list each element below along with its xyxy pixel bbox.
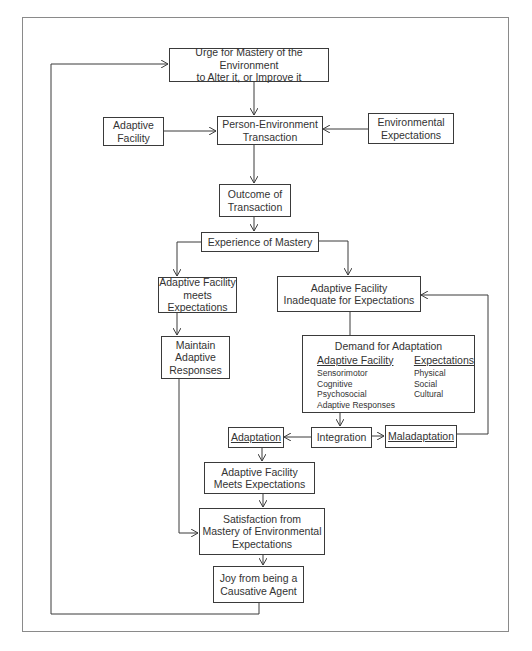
urge-for-mastery-node: Urge for Mastery of the Environment to A…: [169, 48, 329, 82]
column-header: Expectations: [414, 354, 474, 367]
column-item: Cultural: [414, 389, 443, 400]
maintain-adaptive-responses-node: Maintain Adaptive Responses: [161, 336, 230, 379]
demand-title: Demand for Adaptation: [335, 340, 442, 353]
column-item: Social: [414, 379, 437, 390]
joy-node: Joy from being a Causative Agent: [213, 566, 304, 603]
node-label: Transaction: [243, 131, 297, 144]
node-label: Mastery of Environmental: [202, 525, 321, 538]
node-label: Satisfaction from: [223, 513, 301, 526]
maladaptation-node: Maladaptation: [385, 425, 457, 448]
node-label: Adaptation: [231, 431, 281, 444]
node-label: Adaptive Facility: [311, 282, 387, 295]
column-item: Physical: [414, 368, 446, 379]
node-label: Outcome of: [228, 188, 282, 201]
column-header: Adaptive Facility: [317, 354, 393, 367]
node-label: meets Expectations: [159, 289, 236, 314]
node-label: Transaction: [228, 201, 282, 214]
column-item: Sensorimotor: [317, 368, 368, 379]
adaptation-node: Adaptation: [228, 427, 284, 448]
column-item: Adaptive Responses: [317, 400, 395, 411]
person-environment-transaction-node: Person-Environment Transaction: [217, 116, 323, 145]
column-item: Psychosocial: [317, 389, 367, 400]
column-item: Cognitive: [317, 379, 352, 390]
demand-for-adaptation-node: Demand for Adaptation Adaptive Facility …: [302, 335, 475, 413]
node-label: Adaptive: [113, 119, 154, 132]
outcome-of-transaction-node: Outcome of Transaction: [219, 184, 291, 217]
node-label: Expectations: [381, 129, 441, 142]
node-label: Person-Environment: [222, 118, 318, 131]
node-label: to Alter it, or Improve it: [196, 71, 301, 84]
experience-of-mastery-node: Experience of Mastery: [201, 232, 319, 252]
adaptive-facility-node: Adaptive Facility: [103, 117, 164, 146]
node-label: Integration: [317, 431, 367, 444]
node-label: Responses: [169, 364, 222, 377]
integration-node: Integration: [311, 427, 372, 448]
adaptive-facility-meets-expectations-node: Adaptive Facility meets Expectations: [158, 277, 237, 313]
node-label: Environmental: [377, 116, 444, 129]
node-label: Joy from being a: [220, 572, 298, 585]
satisfaction-node: Satisfaction from Mastery of Environment…: [199, 508, 325, 555]
node-label: Maladaptation: [388, 430, 454, 443]
node-label: Urge for Mastery of the Environment: [170, 46, 328, 71]
node-label: Inadequate for Expectations: [284, 294, 415, 307]
adaptive-facility-inadequate-node: Adaptive Facility Inadequate for Expecta…: [277, 276, 421, 312]
node-label: Expectations: [232, 538, 292, 551]
node-label: Maintain Adaptive: [162, 339, 229, 364]
environmental-expectations-node: Environmental Expectations: [368, 113, 454, 144]
adaptive-facility-column: Adaptive Facility Sensorimotor Cognitive…: [303, 354, 410, 411]
adaptive-facility-meets-expectations-2-node: Adaptive Facility Meets Expectations: [204, 462, 315, 494]
node-label: Adaptive Facility: [159, 276, 235, 289]
node-label: Experience of Mastery: [208, 236, 312, 249]
node-label: Adaptive Facility: [221, 466, 297, 479]
node-label: Meets Expectations: [214, 478, 306, 491]
node-label: Causative Agent: [220, 585, 296, 598]
demand-columns: Adaptive Facility Sensorimotor Cognitive…: [303, 354, 474, 411]
expectations-column: Expectations Physical Social Cultural: [410, 354, 474, 411]
node-label: Facility: [117, 132, 150, 145]
